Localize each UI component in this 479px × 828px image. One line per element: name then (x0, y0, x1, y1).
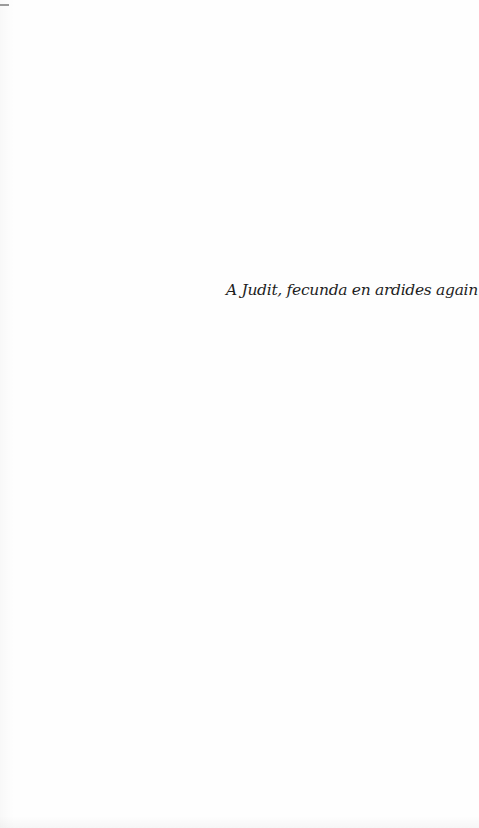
scan-bottom-noise (0, 816, 479, 828)
page-edge-shadow (0, 0, 14, 828)
scan-edge-mark (0, 4, 9, 6)
dedication-text: A Judit, fecunda en ardides again (226, 281, 478, 299)
book-page: A Judit, fecunda en ardides again (0, 0, 479, 828)
